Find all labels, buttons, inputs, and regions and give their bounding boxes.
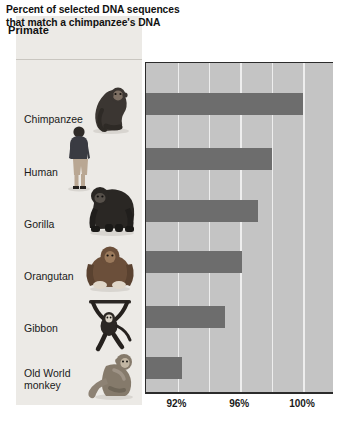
row-label-old-world-monkey: Old World monkey [24, 367, 71, 391]
bar-gibbon [146, 306, 225, 328]
row-label-orangutan: Orangutan [24, 270, 74, 282]
bar-chimpanzee [146, 93, 303, 115]
x-tick-label-96: 96% [229, 398, 249, 409]
bar-human [146, 148, 272, 170]
plot-panel [145, 62, 333, 392]
row-label-chimpanzee: Chimpanzee [24, 113, 83, 125]
bar-gorilla [146, 200, 258, 222]
x-tick-label-92: 92% [166, 398, 186, 409]
gridline-100 [303, 63, 305, 392]
primate-column [16, 16, 142, 405]
x-tick-label-100: 100% [289, 398, 315, 409]
bar-orangutan [146, 251, 242, 273]
axis-baseline [145, 392, 333, 394]
row-label-gorilla: Gorilla [24, 218, 54, 230]
chart-title: Percent of selected DNA sequences that m… [6, 4, 188, 29]
row-label-human: Human [24, 166, 58, 178]
bar-old-world-monkey [146, 357, 182, 379]
row-label-gibbon: Gibbon [24, 322, 58, 334]
